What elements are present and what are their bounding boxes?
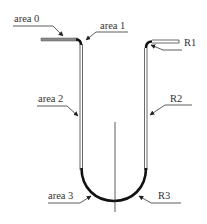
label-area0: area 0: [14, 14, 39, 25]
leader-area0: [13, 26, 63, 36]
right-bend-corner: [146, 42, 152, 49]
label-area1: area 1: [100, 21, 125, 32]
label-r3: R3: [158, 191, 170, 202]
leader-r2: [150, 105, 192, 115]
leader-area1: [86, 32, 128, 40]
label-area3: area 3: [48, 191, 73, 202]
bottom-u-curve: [82, 168, 147, 201]
left-wall: [80, 44, 83, 170]
label-r1: R1: [184, 38, 196, 49]
u-bend-diagram: [0, 0, 207, 224]
leader-area2: [37, 106, 78, 116]
right-wall: [145, 48, 148, 170]
left-flange: [41, 38, 78, 41]
label-r2: R2: [170, 94, 182, 105]
right-flange: [152, 40, 179, 43]
label-area2: area 2: [38, 94, 63, 105]
leader-r1: [151, 45, 182, 50]
